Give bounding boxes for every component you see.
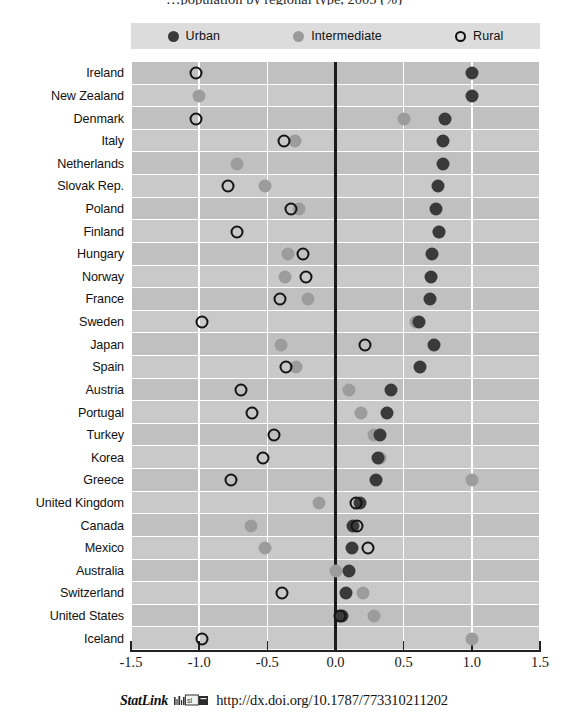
data-point-urban[interactable] [423,293,436,306]
data-point-urban[interactable] [374,429,387,442]
data-point-intermediate[interactable] [343,383,356,396]
y-axis-label-denmark: Denmark [0,112,124,126]
data-point-urban[interactable] [414,361,427,374]
y-axis-label-new-zealand: New Zealand [0,89,124,103]
chart-figure: …population by regional type, 2005 (%) U… [0,0,568,723]
data-point-urban[interactable] [465,89,478,102]
x-axis-tick-label: -0.5 [256,654,279,671]
y-axis-label-united-kingdom: United Kingdom [0,496,124,510]
data-point-rural[interactable] [284,203,297,216]
data-point-rural[interactable] [190,112,203,125]
y-axis-label-greece: Greece [0,473,124,487]
data-point-urban[interactable] [431,180,444,193]
x-axis-tick-label: 0.5 [395,654,413,671]
data-point-intermediate[interactable] [367,610,380,623]
data-point-rural[interactable] [268,429,281,442]
legend-label-rural: Rural [473,29,503,43]
y-axis-label-italy: Italy [0,134,124,148]
data-point-rural[interactable] [224,474,237,487]
data-point-rural[interactable] [296,248,309,261]
data-point-rural[interactable] [231,225,244,238]
data-point-intermediate[interactable] [397,112,410,125]
data-point-rural[interactable] [362,542,375,555]
y-axis-label-spain: Spain [0,360,124,374]
x-axis-tick-label: -1.0 [188,654,211,671]
data-point-urban[interactable] [381,406,394,419]
data-point-urban[interactable] [412,316,425,329]
y-axis-label-poland: Poland [0,202,124,216]
data-point-intermediate[interactable] [281,248,294,261]
legend-item-rural[interactable]: Rural [455,29,503,43]
data-point-rural[interactable] [235,383,248,396]
x-axis-tick [539,641,541,652]
filled-grey-circle-icon [293,31,304,42]
plot-area [131,62,540,650]
y-axis-label-france: France [0,292,124,306]
data-point-urban[interactable] [437,157,450,170]
data-point-intermediate[interactable] [465,632,478,645]
data-point-urban[interactable] [433,225,446,238]
data-point-rural[interactable] [195,632,208,645]
y-axis-label-united-states: United States [0,609,124,623]
open-circle-icon [455,31,466,42]
data-point-intermediate[interactable] [465,474,478,487]
data-point-urban[interactable] [424,270,437,283]
data-point-urban[interactable] [340,587,353,600]
x-axis-tick [403,641,405,652]
data-point-intermediate[interactable] [258,180,271,193]
data-point-rural[interactable] [221,180,234,193]
data-point-rural[interactable] [349,497,362,510]
data-point-intermediate[interactable] [193,89,206,102]
y-axis-label-iceland: Iceland [0,632,124,646]
y-axis-label-mexico: Mexico [0,541,124,555]
vertical-gridline [130,62,132,650]
y-axis-label-turkey: Turkey [0,428,124,442]
data-point-intermediate[interactable] [231,157,244,170]
data-point-rural[interactable] [351,519,364,532]
data-point-rural[interactable] [195,316,208,329]
data-point-urban[interactable] [343,564,356,577]
data-point-rural[interactable] [277,135,290,148]
data-point-intermediate[interactable] [279,270,292,283]
data-point-urban[interactable] [430,203,443,216]
data-point-intermediate[interactable] [302,293,315,306]
y-axis-label-portugal: Portugal [0,406,124,420]
data-point-urban[interactable] [465,67,478,80]
data-point-urban[interactable] [371,451,384,464]
data-point-intermediate[interactable] [258,542,271,555]
y-axis-label-netherlands: Netherlands [0,157,124,171]
data-point-urban[interactable] [345,542,358,555]
data-point-rural[interactable] [359,338,372,351]
data-point-intermediate[interactable] [244,519,257,532]
data-point-urban[interactable] [427,338,440,351]
y-axis-label-austria: Austria [0,383,124,397]
data-point-urban[interactable] [385,383,398,396]
data-point-urban[interactable] [426,248,439,261]
x-axis-tick [335,641,337,652]
x-axis-tick [130,641,132,652]
legend-item-urban[interactable]: Urban [168,29,221,43]
data-point-intermediate[interactable] [274,338,287,351]
data-point-rural[interactable] [333,610,346,623]
data-point-rural[interactable] [273,293,286,306]
data-point-rural[interactable] [246,406,259,419]
data-point-urban[interactable] [437,135,450,148]
data-point-rural[interactable] [299,270,312,283]
data-point-intermediate[interactable] [329,564,342,577]
x-axis-tick [267,641,269,652]
data-point-rural[interactable] [276,587,289,600]
data-point-rural[interactable] [257,451,270,464]
data-point-urban[interactable] [370,474,383,487]
data-point-intermediate[interactable] [356,587,369,600]
legend-label-intermediate: Intermediate [311,29,382,43]
data-point-intermediate[interactable] [313,497,326,510]
y-axis-label-finland: Finland [0,225,124,239]
data-point-rural[interactable] [190,67,203,80]
chart-legend: Urban Intermediate Rural [131,23,540,49]
legend-label-urban: Urban [186,29,221,43]
legend-item-intermediate[interactable]: Intermediate [293,29,382,43]
data-point-intermediate[interactable] [355,406,368,419]
zero-reference-line [334,62,336,650]
data-point-urban[interactable] [438,112,451,125]
data-point-rural[interactable] [280,361,293,374]
